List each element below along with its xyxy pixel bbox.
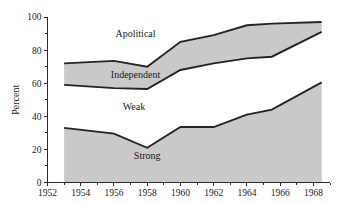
band-label-independent: Independent <box>111 69 161 80</box>
area-band-independent <box>64 22 322 89</box>
band-label-apolitical: Apolitical <box>116 28 156 39</box>
x-tick-label-1968: 1968 <box>304 188 323 198</box>
x-tick-label-1962: 1962 <box>204 188 223 198</box>
chart-canvas: 0204060801001952195419561958196019621964… <box>0 0 343 204</box>
area-chart-figure: 0204060801001952195419561958196019621964… <box>0 0 343 204</box>
y-tick-label-20: 20 <box>32 145 42 155</box>
y-axis-title: Percent <box>10 85 21 115</box>
x-tick-label-1966: 1966 <box>271 188 290 198</box>
x-tick-label-1952: 1952 <box>38 188 57 198</box>
y-tick-label-0: 0 <box>37 178 42 188</box>
x-tick-label-1956: 1956 <box>104 188 123 198</box>
y-tick-label-80: 80 <box>32 46 42 56</box>
x-tick-label-1958: 1958 <box>138 188 157 198</box>
x-tick-label-1964: 1964 <box>237 188 256 198</box>
x-tick-label-1954: 1954 <box>71 188 90 198</box>
band-label-strong: Strong <box>134 150 161 161</box>
y-axis-title-group: Percent <box>10 85 21 115</box>
band-label-weak: Weak <box>123 101 146 112</box>
x-tick-label-1960: 1960 <box>171 188 190 198</box>
y-tick-label-100: 100 <box>27 12 42 22</box>
y-tick-label-60: 60 <box>32 79 42 89</box>
y-tick-label-40: 40 <box>32 112 42 122</box>
plot-bands <box>64 22 322 183</box>
